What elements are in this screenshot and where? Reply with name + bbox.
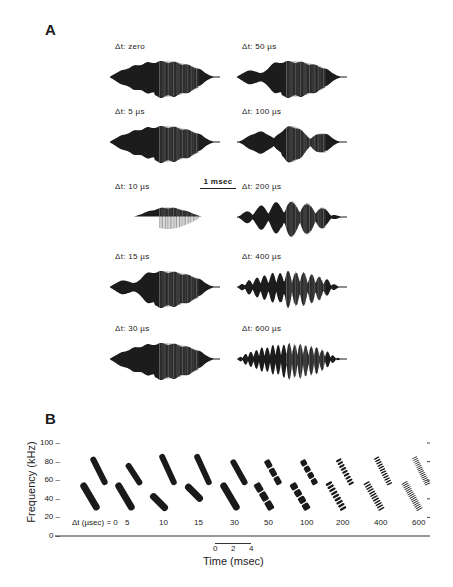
dt-label: 100 [300,518,313,527]
time-scale-tick: 0 [213,544,217,553]
dt-label: 600 [412,518,425,527]
dt-label: Δt (µsec) = 0 [72,518,118,527]
dt-label: 50 [264,518,273,527]
dt-label: 400 [374,518,387,527]
y-tick-label: 20 – [38,512,60,521]
dt-label: 5 [125,518,129,527]
dt-label: 10 [159,518,168,527]
y-tick-label: 100 – [38,438,60,447]
y-tick-label: 60 – [38,475,60,484]
y-tick-label: 80 – [38,457,60,466]
x-axis-title: Time (msec) [203,555,264,567]
time-scale: 024 [213,543,253,553]
dt-label: 30 [230,518,239,527]
time-scale-tick: 4 [249,544,253,553]
y-tick-label: 0 – [38,531,60,540]
spectrogram-plot [0,0,453,587]
dt-label: 200 [336,518,349,527]
time-scale-tick: 2 [231,544,235,553]
y-tick-label: 40 – [38,494,60,503]
dt-label: 15 [194,518,203,527]
